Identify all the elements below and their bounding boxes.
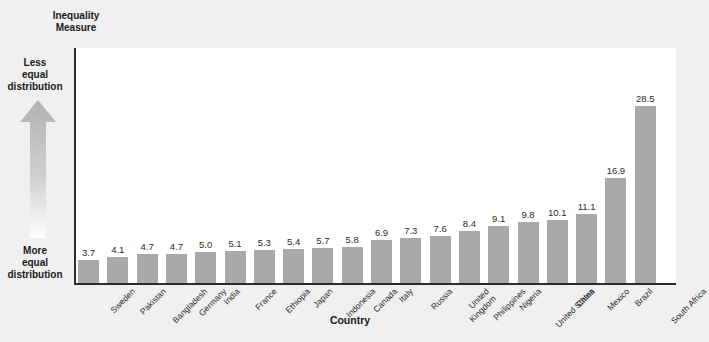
- y-axis-title-line-2: Measure: [30, 22, 122, 34]
- bar[interactable]: [488, 226, 509, 283]
- bar[interactable]: [605, 178, 626, 283]
- bar[interactable]: [635, 106, 656, 283]
- up-arrow-icon: [18, 98, 58, 238]
- bar[interactable]: [576, 214, 597, 283]
- bar[interactable]: [195, 252, 216, 283]
- less-equal-line-1: Less: [0, 57, 70, 69]
- more-equal-line-1: More: [0, 245, 70, 257]
- x-axis-label: Sweden: [108, 287, 136, 315]
- less-equal-distribution-label: Less equal distribution: [0, 57, 70, 93]
- bar[interactable]: [166, 254, 187, 283]
- y-axis-title: Inequality Measure: [30, 10, 122, 34]
- x-axis-label: Japan: [311, 287, 334, 310]
- x-axis-label: Ethiopia: [284, 287, 312, 315]
- bar[interactable]: [342, 247, 363, 283]
- bar[interactable]: [225, 251, 246, 283]
- x-axis-label: Italy: [397, 287, 415, 305]
- bar[interactable]: [518, 222, 539, 283]
- bar[interactable]: [400, 238, 421, 283]
- less-equal-line-2: equal: [0, 69, 70, 81]
- more-equal-distribution-label: More equal distribution: [0, 245, 70, 281]
- bar-value-label: 11.1: [569, 201, 604, 212]
- x-axis-label: Mexico: [605, 287, 631, 313]
- bar[interactable]: [78, 260, 99, 283]
- bar-value-label: 28.5: [628, 93, 663, 104]
- x-axis-label: France: [254, 287, 279, 312]
- bar[interactable]: [459, 231, 480, 283]
- x-axis-title: Country: [0, 314, 700, 326]
- x-axis-line: [74, 283, 676, 285]
- bar[interactable]: [137, 254, 158, 283]
- x-axis-label: Pakistan: [138, 287, 168, 317]
- bar[interactable]: [547, 220, 568, 283]
- bar[interactable]: [107, 257, 128, 283]
- more-equal-line-3: distribution: [0, 269, 70, 281]
- x-axis-label: Brazil: [633, 287, 655, 309]
- bar[interactable]: [430, 236, 451, 283]
- x-axis-label: Russia: [429, 287, 454, 312]
- bar[interactable]: [254, 250, 275, 283]
- bar-value-label: 16.9: [598, 165, 633, 176]
- bar[interactable]: [283, 249, 304, 283]
- bar[interactable]: [312, 248, 333, 283]
- bars-layer: 3.74.14.74.75.05.15.35.45.75.86.97.37.68…: [74, 48, 676, 283]
- x-axis-category-labels: SwedenPakistanBangladeshGermanyIndiaFran…: [74, 287, 676, 335]
- x-axis-label: China: [575, 287, 597, 309]
- more-equal-line-2: equal: [0, 257, 70, 269]
- less-equal-line-3: distribution: [0, 81, 70, 93]
- bar[interactable]: [371, 240, 392, 283]
- y-axis-title-line-1: Inequality: [30, 10, 122, 22]
